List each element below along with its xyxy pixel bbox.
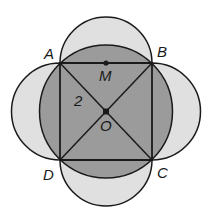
label-b: B bbox=[157, 43, 167, 60]
geometry-diagram: A B C D M O 2 bbox=[0, 0, 209, 219]
point-m bbox=[103, 60, 108, 65]
point-o bbox=[103, 109, 109, 115]
label-m: M bbox=[99, 67, 112, 84]
label-d: D bbox=[43, 166, 54, 183]
label-length-ao: 2 bbox=[73, 92, 83, 109]
label-a: A bbox=[43, 45, 54, 62]
label-o: O bbox=[100, 117, 112, 134]
label-c: C bbox=[157, 164, 168, 181]
